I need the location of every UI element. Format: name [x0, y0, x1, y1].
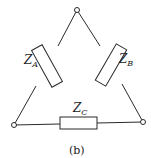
node-bottom-right: [141, 120, 146, 125]
impedance-c-resistor: [60, 117, 97, 129]
label-z-b: ZB: [118, 52, 133, 68]
wire-a-upper: [58, 10, 77, 46]
wire-b-lower: [122, 84, 143, 122]
node-bottom-left: [12, 123, 17, 128]
label-z-c: ZC: [72, 101, 87, 117]
wire-b-upper: [77, 10, 100, 46]
wire-c-right: [97, 122, 143, 123]
wire-c-left: [14, 124, 60, 125]
figure-caption: (b): [69, 144, 85, 157]
wire-a-lower: [14, 86, 36, 125]
delta-circuit-diagram: ZA ZB ZC (b): [0, 0, 151, 158]
node-top: [75, 8, 80, 13]
